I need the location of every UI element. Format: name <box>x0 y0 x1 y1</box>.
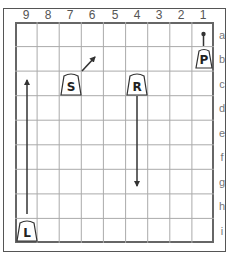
piece-lance[interactable]: L <box>17 224 37 241</box>
board-grid <box>0 0 233 260</box>
piece-silver[interactable]: S <box>61 78 81 95</box>
piece-pawn[interactable]: P <box>196 52 212 68</box>
piece-rook[interactable]: R <box>127 78 147 95</box>
pawn-move-arrow <box>201 32 205 46</box>
grid-lines <box>15 22 214 243</box>
rook-label: R <box>127 80 147 94</box>
pawn-label: P <box>196 53 212 67</box>
silver-label: S <box>61 80 81 94</box>
lance-label: L <box>17 226 37 240</box>
silver-move-arrow <box>82 57 95 71</box>
